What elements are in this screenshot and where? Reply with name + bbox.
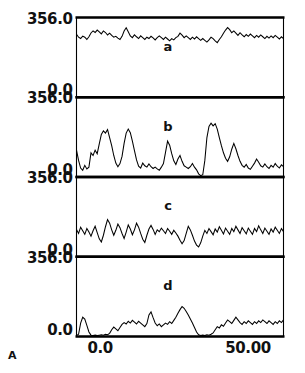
trace-a bbox=[77, 28, 284, 43]
panel-b: 356.00.0b bbox=[27, 89, 284, 179]
xtick-1: 50.00 bbox=[225, 339, 270, 357]
ytick-top-b: 356.0 bbox=[27, 89, 72, 107]
panel-a: 356.00.0a bbox=[27, 10, 284, 100]
ytick-top-d: 356.0 bbox=[27, 249, 72, 267]
trace-d bbox=[77, 306, 284, 335]
ytick-top-a: 356.0 bbox=[27, 10, 72, 28]
panel-c: 356.00.0c bbox=[27, 169, 284, 259]
panel-letter-a: a bbox=[164, 39, 173, 54]
panel-letter-d: d bbox=[163, 278, 172, 293]
ytick-top-c: 356.0 bbox=[27, 169, 72, 187]
panel-frame-c bbox=[77, 177, 284, 257]
figure-letter: A bbox=[8, 349, 17, 362]
panel-frame-b bbox=[77, 97, 284, 177]
xtick-0: 0.0 bbox=[87, 339, 112, 357]
trace-b bbox=[77, 123, 284, 175]
trace-c bbox=[77, 220, 284, 247]
x-axis: 0.050.00 bbox=[87, 339, 270, 357]
panel-letter-b: b bbox=[163, 119, 172, 134]
ytick-bottom-d: 0.0 bbox=[47, 321, 72, 339]
figure-canvas: 356.00.0a356.00.0b356.00.0c356.00.0d0.05… bbox=[0, 0, 305, 373]
panel-frame-a bbox=[77, 18, 284, 98]
panel-letter-c: c bbox=[164, 198, 172, 213]
panel-d: 356.00.0d bbox=[27, 249, 284, 339]
figure-panel-a: 356.00.0a356.00.0b356.00.0c356.00.0d0.05… bbox=[0, 0, 305, 373]
